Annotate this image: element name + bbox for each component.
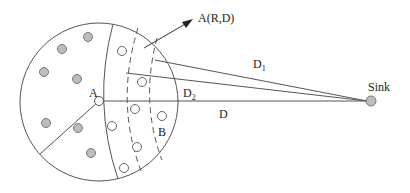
filled-sensor-node xyxy=(87,149,96,158)
empty-sensor-node xyxy=(158,112,167,121)
d2-label: D2 xyxy=(183,86,196,102)
filled-sensor-node xyxy=(42,119,51,128)
empty-sensor-node xyxy=(118,47,127,56)
filled-sensor-node xyxy=(73,75,82,84)
node-a-label: A xyxy=(89,86,98,100)
empty-sensor-node xyxy=(133,143,142,152)
empty-sensor-node xyxy=(120,164,129,173)
sector-line xyxy=(40,101,99,154)
d1-label: D1 xyxy=(253,57,266,73)
sink-node xyxy=(366,96,376,106)
d-label: D xyxy=(219,107,228,121)
arrow-head-icon xyxy=(182,19,193,28)
filled-sensor-node xyxy=(74,124,83,133)
dashed-arc-2 xyxy=(150,38,162,160)
filled-sensor-node xyxy=(58,45,67,54)
filled-sensor-node xyxy=(84,33,93,42)
arrow-label: A(R,D) xyxy=(198,11,234,25)
empty-sensor-node xyxy=(138,78,147,87)
arrow-line xyxy=(144,23,187,48)
sink-label: Sink xyxy=(368,80,390,94)
network-diagram: A(R,D) A B D1 D2 D Sink xyxy=(0,0,410,193)
empty-sensor-node xyxy=(108,122,117,131)
region-b-label: B xyxy=(158,125,166,139)
empty-sensor-node xyxy=(131,105,140,114)
filled-sensor-node xyxy=(40,68,49,77)
